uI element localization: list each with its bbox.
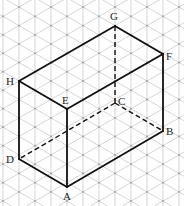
vertex-label-a: A — [63, 190, 71, 202]
vertex-label-b: B — [166, 125, 173, 137]
vertex-label-e: E — [62, 94, 69, 106]
vertex-label-c: C — [118, 95, 125, 107]
isometric-cuboid-diagram: G F H E C B D A — [0, 0, 184, 206]
edge-ad — [19, 159, 67, 187]
vertex-label-g: G — [110, 10, 118, 22]
vertex-label-h: H — [6, 75, 14, 87]
hidden-edge-cb — [115, 103, 163, 131]
isometric-grid — [0, 0, 184, 206]
vertex-label-d: D — [6, 153, 14, 165]
hidden-edges — [19, 26, 163, 159]
vertex-label-f: F — [166, 50, 172, 62]
